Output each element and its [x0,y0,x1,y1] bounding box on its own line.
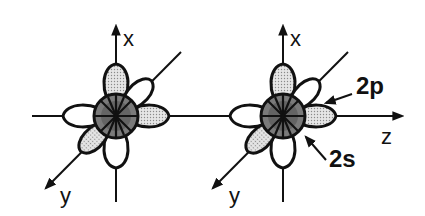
left-atom [46,26,181,202]
right-y-label: y [229,183,240,208]
right-z-label: z [381,124,392,149]
pointer-2p [326,94,352,103]
pointer-2s [306,137,326,160]
right-atom [213,26,348,202]
label-2p: 2p [356,72,384,99]
right-2s-orbital [261,94,305,138]
orbital-diagram: x y x y z 2p [0,0,425,216]
left-x-label: x [123,26,134,51]
left-y-label: y [60,183,71,208]
left-2s-orbital [94,94,138,138]
label-2s: 2s [329,145,356,172]
right-x-label: x [290,26,301,51]
